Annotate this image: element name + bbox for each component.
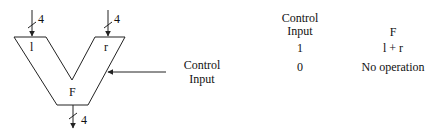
- table-cell-control: 0: [268, 61, 332, 74]
- input-r-arrow: [104, 10, 112, 36]
- input-l-label: l: [30, 41, 33, 54]
- output-arrow: [69, 105, 77, 128]
- table-header-f: F: [338, 26, 429, 39]
- table-cell-control: 1: [268, 42, 332, 55]
- table-cell-f: l + r: [338, 42, 429, 55]
- input-r-width-label: 4: [114, 13, 120, 26]
- output-width-label: 4: [81, 114, 87, 127]
- input-l-arrow: [28, 10, 36, 36]
- control-input-label: Control Input: [170, 58, 234, 86]
- input-r-label: r: [104, 41, 108, 54]
- control-label-line2: Input: [170, 72, 234, 86]
- input-l-width-label: 4: [38, 13, 44, 26]
- control-label-line1: Control: [170, 58, 234, 72]
- output-label: F: [69, 86, 76, 99]
- table-cell-f: No operation: [338, 61, 429, 74]
- table-header-control-line2: Input: [268, 25, 332, 38]
- table-header-control: Control Input: [268, 12, 332, 38]
